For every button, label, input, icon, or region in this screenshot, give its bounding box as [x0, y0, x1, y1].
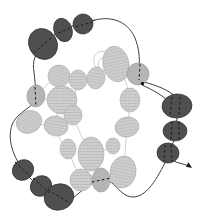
- knot-dot: [141, 82, 144, 85]
- dark-thread-path: [142, 85, 168, 101]
- stippled-bead: [70, 169, 92, 191]
- stippled-bead: [85, 66, 107, 91]
- dark-bead: [163, 121, 187, 141]
- stippled-bead: [45, 62, 73, 90]
- stippled-bead: [13, 107, 46, 138]
- dark-bead: [156, 142, 180, 164]
- stippled-bead: [120, 88, 140, 112]
- stippled-bead: [106, 138, 120, 154]
- dark-bead: [161, 93, 193, 120]
- stippled-bead: [107, 154, 138, 190]
- stippled-bead: [78, 137, 104, 171]
- stippled-bead: [60, 139, 76, 159]
- stippled-bead: [69, 70, 87, 90]
- bead-thread-diagram: [0, 0, 207, 222]
- bead-diagram-canvas: [0, 0, 207, 222]
- stippled-bead: [113, 115, 140, 139]
- dark-bead: [71, 12, 94, 35]
- plain-bead: [92, 168, 110, 192]
